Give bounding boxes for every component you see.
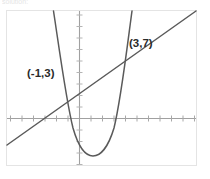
plot-frame bbox=[7, 11, 197, 166]
point-label-intersection-right: (3,7) bbox=[129, 37, 153, 49]
point-label-intersection-left: (-1,3) bbox=[27, 67, 55, 79]
coordinate-plane: (-1,3) (3,7) bbox=[0, 0, 210, 179]
graph-figure: solution: bbox=[0, 0, 210, 179]
